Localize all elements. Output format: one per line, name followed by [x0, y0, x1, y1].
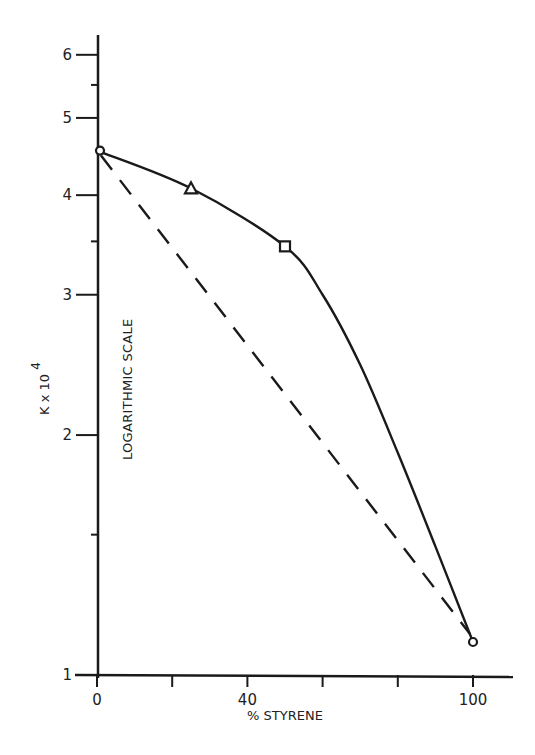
dashed-line: [101, 156, 470, 634]
square-marker: [280, 241, 290, 251]
x-tick-label: 0: [92, 691, 102, 709]
x-axis-line: [75, 675, 513, 677]
labels-group: K x 10 4LOGARITHMIC SCALE% STYRENE: [29, 318, 323, 723]
y-tick-label: 3: [62, 286, 72, 304]
logarithmic-scale-annotation: LOGARITHMIC SCALE: [120, 318, 135, 460]
circle-marker: [469, 638, 477, 646]
y-tick-label: 1: [62, 666, 72, 684]
circle-marker: [96, 147, 104, 155]
y-tick-label: 2: [62, 426, 72, 444]
series-group: [96, 147, 477, 646]
solid-curve: [97, 151, 473, 642]
y-axis-title: K x 10 4: [29, 362, 52, 415]
y-axis-title-exponent: 4: [29, 362, 43, 370]
x-tick-label: 40: [238, 691, 257, 709]
triangle-marker: [185, 182, 197, 193]
chart: 123456040100 K x 10 4LOGARITHMIC SCALE% …: [0, 0, 535, 755]
x-axis-title: % STYRENE: [247, 708, 323, 723]
y-tick-label: 4: [62, 186, 72, 204]
y-tick-label: 5: [62, 109, 72, 127]
y-tick-label: 6: [62, 46, 72, 64]
x-tick-label: 100: [459, 691, 488, 709]
